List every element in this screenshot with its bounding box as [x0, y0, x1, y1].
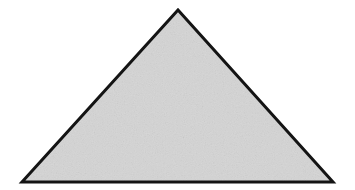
image-canvas: [0, 0, 355, 190]
triangle-figure: [0, 0, 355, 190]
